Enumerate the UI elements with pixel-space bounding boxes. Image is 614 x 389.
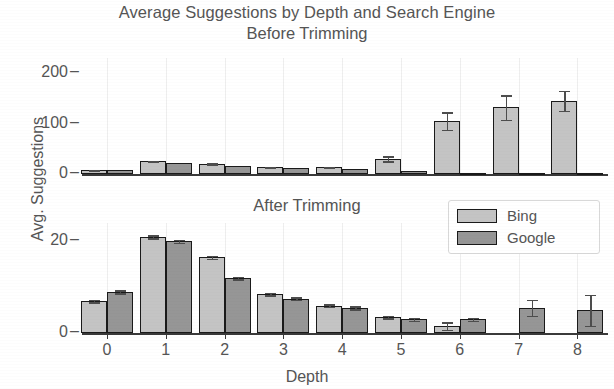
x-axis-tick-label: 1 [151,341,181,359]
error-bar-cap [585,295,596,296]
error-bar-cap [527,316,538,317]
bar-bing-depth-2 [199,257,225,333]
error-bar-cap [324,307,335,308]
error-bar-cap [265,295,276,296]
error-bar-cap [291,300,302,301]
error-bar-cap [527,300,538,301]
error-bar-cap [148,238,159,239]
y-axis-tick-mark: – [70,322,79,340]
error-bar-cap [265,293,276,294]
error-bar-cap [148,235,159,236]
error-bar-cap [115,293,126,294]
error-bar-cap [442,330,453,331]
bar-google-depth-4 [342,308,368,333]
x-axis-tick-mark [577,334,578,339]
error-bar-cap [442,322,453,323]
error-bar [532,300,533,316]
error-bar-cap [383,316,394,317]
panel-after-trimming: 0–20–012345678 [0,0,614,389]
x-axis-line [82,333,608,335]
error-bar-cap [174,240,185,241]
x-axis-tick-mark [460,334,461,339]
bar-google-depth-2 [225,278,251,333]
x-axis-tick-label: 2 [210,341,240,359]
gridline-vertical [401,223,402,333]
bar-bing-depth-4 [316,306,342,334]
x-axis-tick-label: 8 [562,341,592,359]
error-bar-cap [174,243,185,244]
error-bar-cap [89,302,100,303]
error-bar-cap [409,321,420,322]
error-bar-cap [291,297,302,298]
error-bar-cap [115,290,126,291]
x-axis-tick-label: 7 [504,341,534,359]
x-axis-tick-mark [107,334,108,339]
error-bar [590,295,591,326]
bar-bing-depth-3 [257,294,283,333]
x-axis-tick-label: 4 [327,341,357,359]
error-bar-cap [383,318,394,319]
x-axis-tick-mark [283,334,284,339]
error-bar-cap [468,318,479,319]
bar-bing-depth-0 [81,301,107,333]
error-bar-cap [207,256,218,257]
error-bar-cap [350,306,361,307]
x-axis-tick-label: 3 [268,341,298,359]
x-axis-tick-label: 5 [386,341,416,359]
y-axis-tick-label: 20 [10,231,68,249]
error-bar-cap [233,279,244,280]
error-bar-cap [585,326,596,327]
legend-swatch-bing-icon [457,209,497,223]
legend-label-google: Google [507,229,555,246]
bar-google-depth-0 [107,292,133,333]
x-axis-tick-mark [225,334,226,339]
bar-bing-depth-1 [140,237,166,333]
x-axis-tick-mark [401,334,402,339]
chart-legend: Bing Google [448,200,600,254]
error-bar-cap [350,309,361,310]
x-axis-tick-mark [166,334,167,339]
legend-swatch-google-icon [457,231,497,245]
error-bar-cap [468,321,479,322]
bar-google-depth-3 [283,299,309,333]
y-axis-tick-label: 0 [10,323,68,341]
chart-figure: Average Suggestions by Depth and Search … [0,0,614,389]
bar-google-depth-1 [166,241,192,333]
x-axis-tick-label: 0 [92,341,122,359]
x-axis-tick-mark [342,334,343,339]
y-axis-tick-mark: – [70,230,79,248]
error-bar-cap [89,300,100,301]
error-bar-cap [324,304,335,305]
error-bar-cap [233,277,244,278]
legend-label-bing: Bing [507,207,537,224]
error-bar-cap [207,259,218,260]
x-axis-tick-label: 6 [445,341,475,359]
x-axis-tick-mark [519,334,520,339]
error-bar-cap [409,318,420,319]
